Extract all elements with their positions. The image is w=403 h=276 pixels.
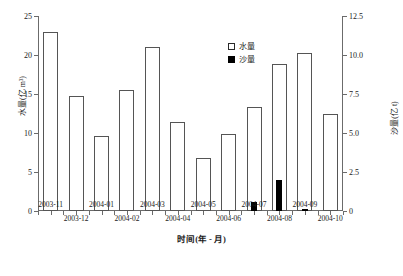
y-tick-label-right: 5.0	[349, 129, 359, 138]
y-tick-label-left: 0	[28, 207, 32, 216]
bar-water	[43, 32, 58, 211]
x-tick	[292, 211, 293, 215]
legend: 水量 沙量	[228, 40, 255, 66]
x-tick	[51, 211, 52, 215]
x-tick-label: 2003-12	[64, 214, 89, 223]
x-axis-title: 时间(年 - 月)	[0, 232, 403, 244]
y-tick-right	[343, 55, 347, 56]
x-tick	[102, 211, 103, 215]
y-tick-label-right: 2.5	[349, 168, 359, 177]
y-tick-label-left: 10	[24, 129, 32, 138]
x-tick-label: 2004-03	[140, 200, 165, 209]
x-tick-label: 2004-10	[318, 214, 343, 223]
bar-series-layer	[38, 16, 343, 211]
open-square-icon	[228, 43, 235, 50]
legend-item-water: 水量	[228, 40, 255, 53]
x-tick-label: 2004-05	[191, 200, 216, 209]
y-tick-label-left: 15	[24, 90, 32, 99]
bar-water	[69, 96, 84, 211]
x-tick	[140, 211, 141, 215]
x-tick	[89, 211, 90, 215]
legend-label-water: 水量	[239, 40, 255, 53]
bar-water	[323, 114, 338, 211]
legend-label-sediment: 沙量	[239, 53, 255, 66]
bar-water	[297, 53, 312, 211]
x-tick	[38, 211, 39, 215]
x-tick	[254, 211, 255, 215]
x-tick-label: 2004-07	[242, 200, 267, 209]
y-tick-label-right: 12.5	[349, 12, 363, 21]
bar-water	[247, 107, 262, 211]
x-tick-label: 2004-04	[165, 214, 190, 223]
x-tick-label: 2004-06	[216, 214, 241, 223]
legend-item-sediment: 沙量	[228, 53, 255, 66]
y-tick-right	[343, 16, 347, 17]
x-tick-label: 2004-09	[292, 200, 317, 209]
x-tick-label: 2004-08	[267, 214, 292, 223]
x-tick	[203, 211, 204, 215]
y-tick-right	[343, 94, 347, 95]
bar-water	[145, 47, 160, 211]
x-tick-label: 2004-02	[114, 214, 139, 223]
y-tick-label-right: 10.0	[349, 51, 363, 60]
x-tick	[191, 211, 192, 215]
x-tick	[343, 211, 344, 215]
y-tick-label-left: 25	[24, 12, 32, 21]
x-tick-label: 2004-01	[89, 200, 114, 209]
bar-water	[170, 122, 185, 211]
y-tick-right	[343, 172, 347, 173]
chart-figure: 水量(亿 m³) 沙量(亿 t) 0510152025 02.55.07.510…	[0, 0, 403, 276]
filled-square-icon	[228, 56, 235, 63]
x-tick	[152, 211, 153, 215]
plot-area: 0510152025 02.55.07.510.012.5	[38, 16, 343, 211]
bar-sediment	[276, 180, 282, 211]
y-tick-right	[343, 133, 347, 134]
bar-water	[221, 134, 236, 211]
x-tick	[241, 211, 242, 215]
bar-sediment	[302, 209, 308, 211]
x-tick	[305, 211, 306, 215]
y-tick-label-right: 0	[349, 207, 353, 216]
y-tick-label-left: 20	[24, 51, 32, 60]
y-tick-label-right: 7.5	[349, 90, 359, 99]
x-tick-label: 2003-11	[38, 200, 63, 209]
bar-water	[119, 90, 134, 211]
y-axis-right-title: 沙量(亿 t)	[389, 101, 400, 135]
y-tick-label-left: 5	[28, 168, 32, 177]
